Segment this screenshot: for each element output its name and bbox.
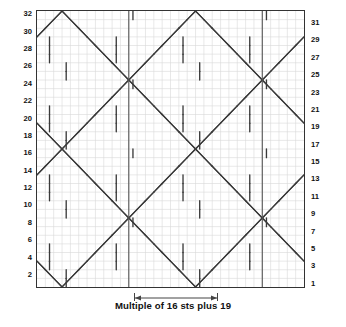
row-numbers-right: 312927252321191715131197531 xyxy=(308,10,338,288)
row-number-odd: 31 xyxy=(311,19,319,27)
row-number-odd: 3 xyxy=(311,262,315,270)
row-number-odd: 1 xyxy=(311,280,315,288)
row-number-even: 4 xyxy=(28,254,32,262)
row-number-odd: 15 xyxy=(311,158,319,166)
row-number-even: 6 xyxy=(28,236,32,244)
row-number-even: 20 xyxy=(24,115,32,123)
row-number-even: 22 xyxy=(24,97,32,105)
chart-canvas xyxy=(37,11,304,287)
row-number-even: 30 xyxy=(24,28,32,36)
row-number-even: 2 xyxy=(28,271,32,279)
row-number-odd: 11 xyxy=(311,193,319,201)
row-number-odd: 17 xyxy=(311,141,319,149)
row-number-even: 28 xyxy=(24,45,32,53)
row-number-odd: 25 xyxy=(311,71,319,79)
row-number-even: 14 xyxy=(24,167,32,175)
row-number-odd: 9 xyxy=(311,210,315,218)
row-number-odd: 7 xyxy=(311,228,315,236)
row-number-even: 32 xyxy=(24,10,32,18)
row-number-odd: 21 xyxy=(311,106,319,114)
chart-caption: Multiple of 16 sts plus 19 xyxy=(0,300,346,311)
row-number-even: 16 xyxy=(24,149,32,157)
row-number-even: 24 xyxy=(24,80,32,88)
row-number-odd: 29 xyxy=(311,36,319,44)
row-number-even: 26 xyxy=(24,62,32,70)
row-number-even: 12 xyxy=(24,184,32,192)
row-number-odd: 13 xyxy=(311,175,319,183)
row-number-odd: 5 xyxy=(311,245,315,253)
cable-chart-grid xyxy=(36,10,305,288)
row-number-odd: 19 xyxy=(311,123,319,131)
row-number-odd: 23 xyxy=(311,89,319,97)
row-number-even: 18 xyxy=(24,132,32,140)
row-number-even: 8 xyxy=(28,219,32,227)
knitting-chart-page: 3230282624222018161412108642 31292725232… xyxy=(0,0,346,327)
row-number-odd: 27 xyxy=(311,54,319,62)
row-numbers-left: 3230282624222018161412108642 xyxy=(4,10,34,288)
row-number-even: 10 xyxy=(24,201,32,209)
